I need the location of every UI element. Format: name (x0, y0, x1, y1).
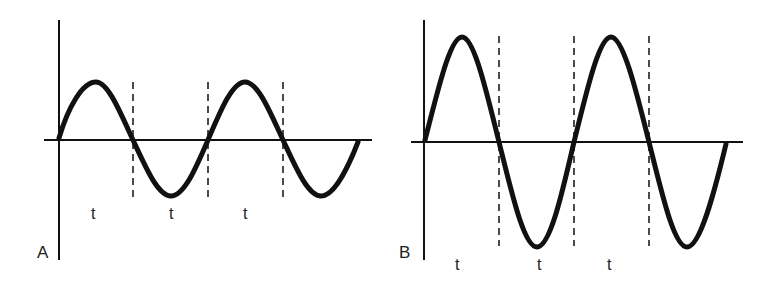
panel-label-b: B (399, 244, 410, 261)
period-label-b-3: t (607, 257, 611, 273)
period-label-b-1: t (455, 257, 459, 273)
figure-canvas (0, 0, 768, 287)
panel-b (411, 20, 743, 260)
period-label-a-1: t (91, 206, 95, 222)
period-label-a-2: t (169, 206, 173, 222)
panel-label-a: A (37, 244, 48, 261)
panel-a (44, 20, 372, 260)
period-label-a-3: t (243, 206, 247, 222)
period-label-b-2: t (537, 257, 541, 273)
